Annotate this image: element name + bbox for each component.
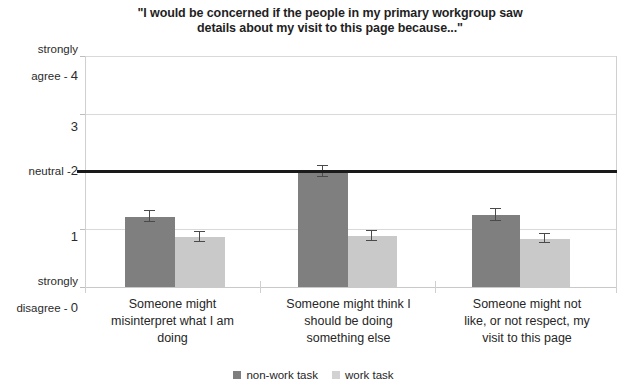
gridline-value-3 [85, 114, 617, 115]
category-label-3-line-1: Someone might not [437, 296, 617, 313]
y-axis-label-0-text-bottom: disagree - [16, 302, 70, 314]
y-axis-label-4-number: 4 [71, 68, 78, 83]
errorbar-cap-top-group-1-non-work-task [144, 210, 155, 211]
errorbar-cap-bottom-group-3-work-task [539, 242, 550, 243]
chart-title-line-1: "I would be concerned if the people in m… [95, 6, 565, 21]
errorbar-cap-top-group-2-work-task [366, 230, 377, 231]
category-label-3-line-2: like, or not respect, my [437, 313, 617, 330]
y-axis-label-0-number: 0 [71, 300, 78, 315]
category-label-3-line-3: visit to this page [437, 330, 617, 347]
legend-swatch-icon-work-task [332, 371, 340, 379]
y-axis-label-3: 3 [8, 107, 78, 134]
y-axis-label-4: strongly agree - 4 [8, 30, 78, 83]
y-axis-label-0: strongly disagree - 0 [2, 262, 78, 315]
bar-group-2-non-work-task [298, 172, 348, 288]
category-label-1-line-3: doing [85, 330, 260, 347]
bar-group-1-non-work-task [125, 217, 175, 288]
category-label-2: Someone might think I should be doing so… [261, 296, 436, 347]
category-separator-left [85, 56, 86, 293]
errorbar-cap-top-group-3-work-task [539, 233, 550, 234]
bar-group-1-work-task [175, 237, 225, 287]
y-axis-label-1-number: 1 [71, 229, 78, 244]
gridline-value-4 [85, 56, 617, 57]
bar-group-3-work-task [520, 239, 570, 288]
errorbar-cap-bottom-group-3-non-work-task [490, 220, 501, 221]
errorbar-cap-bottom-group-2-work-task [366, 240, 377, 241]
errorbar-cap-bottom-group-1-non-work-task [144, 221, 155, 222]
bar-group-2-work-task [348, 236, 397, 287]
y-axis-label-1: 1 [8, 217, 78, 244]
y-axis-label-2-text-bottom: neutral - [29, 165, 71, 177]
chart-title-line-2: details about my visit to this page beca… [95, 21, 565, 36]
plot-area [85, 56, 617, 287]
y-axis-label-4-text-top: strongly [38, 43, 78, 55]
y-axis-label-4-text-bottom: agree - [31, 70, 71, 82]
y-axis-label-3-number: 3 [71, 119, 78, 134]
legend-label-non-work-task: non-work task [246, 369, 318, 381]
errorbar-cap-top-group-3-non-work-task [490, 208, 501, 209]
y-axis-label-0-text-top: strongly [38, 275, 78, 287]
bar-group-3-non-work-task [472, 215, 520, 287]
errorbar-cap-bottom-group-2-non-work-task [317, 176, 328, 177]
category-separator-1 [260, 281, 261, 293]
bar-chart-figure: "I would be concerned if the people in m… [0, 0, 627, 391]
category-separator-2 [435, 281, 436, 293]
chart-legend: non-work task work task [0, 369, 627, 381]
category-label-1: Someone might misinterpret what I am doi… [85, 296, 260, 347]
legend-label-work-task: work task [345, 369, 394, 381]
errorbar-cap-bottom-group-1-work-task [194, 241, 205, 242]
chart-title: "I would be concerned if the people in m… [95, 6, 565, 36]
category-label-2-line-3: something else [261, 330, 436, 347]
gridline-value-0 [85, 287, 617, 288]
legend-item-work-task[interactable]: work task [332, 369, 394, 381]
errorbar-cap-top-group-1-work-task [194, 231, 205, 232]
category-label-2-line-1: Someone might think I [261, 296, 436, 313]
category-label-2-line-2: should be doing [261, 313, 436, 330]
category-label-1-line-1: Someone might [85, 296, 260, 313]
category-separator-right [616, 56, 617, 293]
y-axis-label-2: neutral -2 [4, 151, 78, 178]
legend-item-non-work-task[interactable]: non-work task [233, 369, 318, 381]
errorbar-cap-top-group-2-non-work-task [317, 165, 328, 166]
category-label-1-line-2: misinterpret what I am [85, 313, 260, 330]
category-label-3: Someone might not like, or not respect, … [437, 296, 617, 347]
neutral-reference-line [77, 170, 617, 173]
legend-swatch-icon-non-work-task [233, 371, 241, 379]
